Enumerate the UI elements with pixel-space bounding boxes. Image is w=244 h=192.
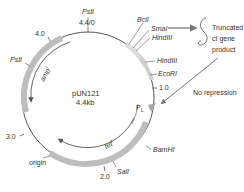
hindiii-1-leader bbox=[136, 38, 150, 51]
site-psti-left: PstI bbox=[10, 56, 22, 63]
plasmid-size: 4.4kb bbox=[76, 98, 94, 107]
origin-label: origin bbox=[29, 159, 46, 167]
tick-2.0 bbox=[104, 166, 105, 171]
tick-label-2.0: 2.0 bbox=[100, 173, 110, 180]
hindiii-2-leader bbox=[145, 61, 155, 62]
truncated-label-line3: product bbox=[212, 46, 235, 54]
plasmid-name: pUN121 bbox=[72, 89, 100, 98]
tick-3.0 bbox=[20, 134, 24, 136]
site-hindiii-1: HindIII bbox=[152, 34, 172, 41]
tick-label-4.0: 4.0 bbox=[35, 30, 45, 37]
plasmid-map: PstI 4.4/0 4.0 PstI 3.0 origin 2.0 SalI … bbox=[0, 0, 244, 192]
site-ecori: EcoRI bbox=[158, 70, 177, 77]
tet-direction-arrow bbox=[60, 118, 134, 148]
bamhi-leader bbox=[146, 146, 151, 149]
tick-label-1.0: 1.0 bbox=[159, 84, 169, 91]
tick-4.0 bbox=[48, 37, 50, 41]
tick-label-3.0: 3.0 bbox=[6, 133, 16, 140]
no-repression-arrow bbox=[162, 58, 218, 103]
site-hindiii-2: HindIII bbox=[157, 57, 177, 64]
origin-leader bbox=[43, 156, 50, 158]
tet-gene-label: tetr bbox=[102, 137, 115, 150]
tet-gene-block bbox=[50, 122, 146, 164]
site-bamhi: BamHI bbox=[153, 146, 174, 153]
truncated-label-line2: cI gene bbox=[212, 35, 235, 43]
amp-gene-label: ampr bbox=[37, 64, 53, 82]
site-sali: SalI bbox=[117, 168, 129, 175]
truncated-label-line1: Truncated bbox=[212, 24, 243, 31]
pl-promoter-marker bbox=[148, 103, 156, 112]
tick-label-4.4-0: 4.4/0 bbox=[79, 19, 95, 26]
site-bcli: BclI bbox=[137, 16, 149, 23]
site-psti-top: PstI bbox=[82, 8, 94, 15]
smai-leader bbox=[133, 30, 149, 48]
site-smai: SmaI bbox=[151, 25, 167, 32]
no-repression-label: No repression bbox=[193, 89, 237, 97]
truncated-protein-icon bbox=[198, 18, 207, 45]
sali-leader bbox=[113, 161, 116, 167]
bcli-leader bbox=[129, 23, 143, 44]
